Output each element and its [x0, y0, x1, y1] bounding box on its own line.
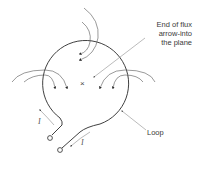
- flux-line-left-outer: [12, 70, 67, 88]
- current-label-right: I: [81, 138, 84, 147]
- leader-loop: [122, 111, 146, 130]
- flux-end-label-line3: the plane: [122, 38, 192, 47]
- current-arrow-left: [40, 110, 54, 125]
- wire-loop: [43, 40, 129, 124]
- flux-end-label: End of flux arrow-into the plane: [122, 20, 192, 47]
- flux-end-label-line1: End of flux: [122, 20, 192, 29]
- flux-line-top-inner: [80, 22, 90, 54]
- flux-line-left-inner: [24, 75, 55, 88]
- terminal-right: [58, 148, 63, 153]
- flux-end-label-line2: arrow-into: [122, 29, 192, 38]
- loop-label: Loop: [147, 128, 164, 137]
- flux-into-plane-symbol: ×: [80, 79, 85, 88]
- wire-lead-left: [52, 118, 62, 135]
- current-label-left: I: [38, 117, 41, 126]
- flux-line-top-outer: [80, 8, 98, 60]
- terminal-left: [48, 136, 53, 141]
